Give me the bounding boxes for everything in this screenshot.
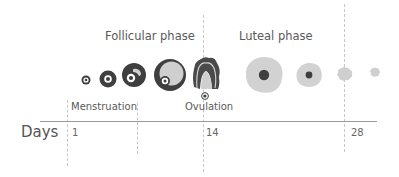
days-axis-label: Days [21, 123, 58, 141]
primary-follicle-icon [98, 69, 118, 89]
ruptured-follicle-icon [191, 55, 221, 91]
day1-guide-line [67, 100, 68, 166]
corpus-luteum-icon [244, 56, 284, 94]
menstruation-end-guide-line [137, 103, 138, 154]
follicular-phase-label: Follicular phase [105, 29, 195, 43]
tick-day-1: 1 [72, 127, 78, 138]
menstruation-label: Menstruation [71, 101, 137, 112]
primordial-follicle-icon [80, 74, 92, 86]
secondary-follicle-icon [121, 62, 147, 88]
mature-follicle-icon [153, 58, 187, 92]
tick-day-14: 14 [206, 127, 219, 138]
ovulation-label: Ovulation [185, 101, 233, 112]
days-axis-line [40, 121, 377, 122]
luteal-phase-label: Luteal phase [239, 29, 313, 43]
tick-day-28: 28 [351, 127, 364, 138]
regressing-corpus-luteum-icon [295, 62, 323, 88]
corpus-albicans-small-icon [369, 67, 381, 78]
released-ovum-icon [201, 92, 209, 100]
corpus-albicans-icon [336, 66, 354, 82]
